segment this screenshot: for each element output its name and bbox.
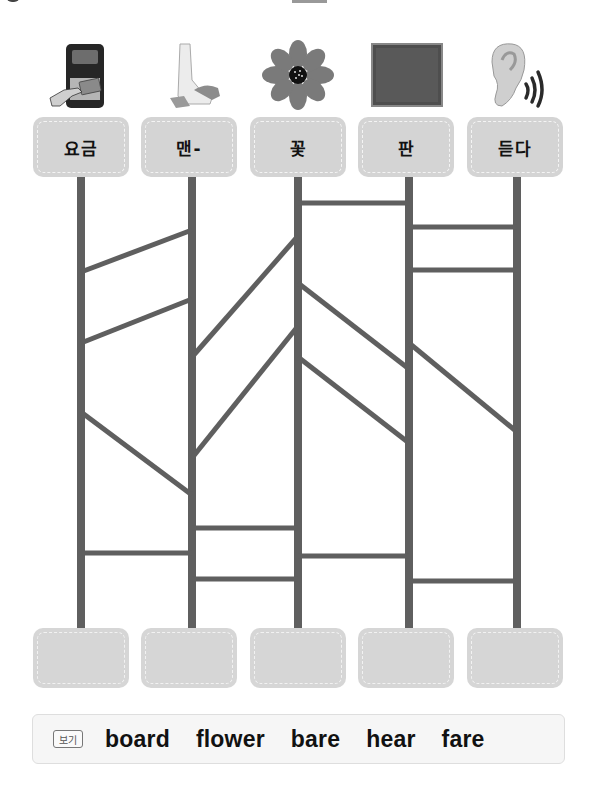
ladder-vertical-5 xyxy=(513,177,521,628)
ladder-vertical-4 xyxy=(405,177,413,628)
ear-hearing-icon xyxy=(478,40,558,110)
page-edge-mark-center xyxy=(292,0,327,3)
label-box-bare: 맨- xyxy=(141,117,237,177)
ladder-rung xyxy=(192,236,298,357)
label-text: 맨- xyxy=(176,135,201,160)
label-box-board: 판 xyxy=(358,117,454,177)
label-text: 판 xyxy=(398,135,415,160)
page-edge-mark-left xyxy=(6,0,20,2)
word-option[interactable]: fare xyxy=(442,726,485,753)
label-box-hear: 듣다 xyxy=(467,117,563,177)
ladder-vertical-1 xyxy=(77,177,85,628)
example-badge: 보기 xyxy=(53,730,83,748)
answer-box-2[interactable] xyxy=(141,628,237,688)
ladder-vertical-3 xyxy=(294,177,302,628)
word-option[interactable]: flower xyxy=(196,726,265,753)
label-box-flower: 꽃 xyxy=(250,117,346,177)
word-list: board flower bare hear fare xyxy=(105,726,511,753)
ladder-rung xyxy=(298,357,409,443)
fare-machine-card-icon xyxy=(42,40,122,110)
word-bank: 보기 board flower bare hear fare xyxy=(32,714,565,764)
ladder-rung xyxy=(81,230,192,272)
word-option[interactable]: bare xyxy=(291,726,340,753)
ladder-rung xyxy=(298,283,409,369)
word-option[interactable]: hear xyxy=(366,726,415,753)
label-text: 요금 xyxy=(64,135,98,160)
answer-box-1[interactable] xyxy=(33,628,129,688)
label-text: 꽃 xyxy=(290,135,307,160)
label-text: 듣다 xyxy=(498,135,532,160)
ladder-vertical-2 xyxy=(188,177,196,628)
flower-icon xyxy=(258,40,338,110)
board-icon xyxy=(368,40,448,110)
bare-foot-icon xyxy=(150,40,230,110)
answer-box-3[interactable] xyxy=(250,628,346,688)
ladder-rung xyxy=(81,299,192,343)
ladder-rung xyxy=(409,343,517,432)
ladder-rung xyxy=(81,412,192,495)
ladder-rung xyxy=(192,326,298,458)
answer-box-5[interactable] xyxy=(467,628,563,688)
answer-box-4[interactable] xyxy=(358,628,454,688)
label-box-fare: 요금 xyxy=(33,117,129,177)
word-option[interactable]: board xyxy=(105,726,170,753)
